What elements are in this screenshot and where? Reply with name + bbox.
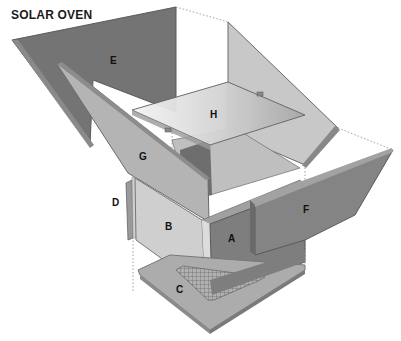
label-b: B <box>165 221 172 232</box>
label-f: F <box>303 204 309 215</box>
hinge-icon <box>165 128 171 132</box>
label-a: A <box>228 233 235 244</box>
reflector-e <box>12 7 176 148</box>
hinge-icon <box>257 92 263 96</box>
label-d: D <box>112 197 119 208</box>
solar-oven-diagram: E H G D B A F C <box>0 0 401 341</box>
label-g: G <box>139 151 147 162</box>
label-h: H <box>210 109 217 120</box>
label-c: C <box>176 284 183 295</box>
label-e: E <box>110 55 117 66</box>
